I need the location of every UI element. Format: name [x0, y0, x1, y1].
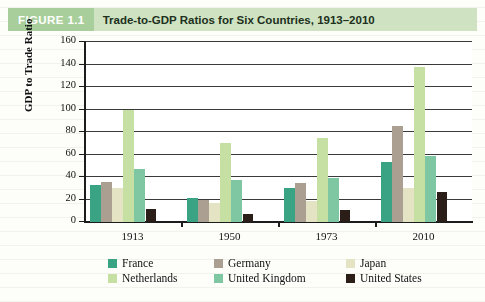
legend-item: Germany — [214, 258, 346, 270]
chart-legend: FranceGermanyJapanNetherlandsUnited King… — [108, 258, 438, 284]
legend-label: United Kingdom — [228, 273, 306, 285]
bar — [90, 185, 101, 222]
y-tick-label: 40 — [36, 170, 76, 181]
x-tick-label: 1973 — [297, 230, 357, 242]
y-axis-label: GDP to Trade Ratio — [22, 19, 34, 112]
bar — [134, 169, 145, 222]
bars-container — [84, 41, 472, 222]
bar — [101, 182, 112, 223]
bar — [198, 200, 209, 223]
y-tick-label: 100 — [36, 103, 76, 114]
legend-swatch — [346, 259, 355, 268]
figure-header: FIGURE 1.1 Trade-to-GDP Ratios for Six C… — [8, 8, 477, 31]
chart-area: GDP to Trade Ratio 020406080100120140160… — [0, 34, 485, 259]
x-tick-label: 1913 — [103, 230, 163, 242]
bar — [414, 67, 425, 222]
bar — [112, 188, 123, 222]
legend-item: Japan — [346, 258, 438, 270]
bar — [392, 126, 403, 222]
y-tick-label: 160 — [36, 35, 76, 46]
legend-item: United States — [346, 273, 438, 285]
legend-swatch — [346, 274, 355, 283]
bar — [381, 162, 392, 222]
y-tick-label: 80 — [36, 125, 76, 136]
bar — [284, 188, 295, 222]
bar — [328, 178, 339, 222]
bar — [403, 188, 414, 222]
bar — [220, 143, 231, 222]
x-tick-label: 1950 — [200, 230, 260, 242]
legend-swatch — [108, 274, 117, 283]
bar — [295, 183, 306, 222]
legend-swatch — [214, 259, 223, 268]
bar — [317, 138, 328, 222]
bar — [437, 192, 448, 222]
bar — [306, 201, 317, 222]
figure-title: Trade-to-GDP Ratios for Six Countries, 1… — [103, 14, 375, 26]
x-tick-mark — [375, 222, 377, 227]
legend-item: Netherlands — [108, 273, 214, 285]
legend-label: Germany — [228, 258, 271, 270]
x-tick-mark — [278, 222, 280, 227]
legend-item: France — [108, 258, 214, 270]
y-tick-label: 0 — [36, 215, 76, 226]
x-tick-label: 2010 — [394, 230, 454, 242]
bar — [123, 110, 134, 223]
bar — [187, 198, 198, 222]
legend-label: Netherlands — [122, 273, 178, 285]
bar — [340, 210, 351, 222]
y-tick-label: 60 — [36, 148, 76, 159]
legend-label: France — [122, 258, 153, 270]
y-tick-label: 120 — [36, 80, 76, 91]
bar — [209, 203, 220, 222]
legend-item: United Kingdom — [214, 273, 346, 285]
y-tick-label: 140 — [36, 58, 76, 69]
bar — [425, 156, 436, 222]
legend-label: Japan — [360, 258, 386, 270]
legend-label: United States — [360, 273, 422, 285]
figure-number: FIGURE 1.1 — [8, 8, 94, 31]
legend-swatch — [108, 259, 117, 268]
bar — [243, 214, 254, 222]
bar — [231, 180, 242, 222]
legend-swatch — [214, 274, 223, 283]
bar — [146, 209, 157, 223]
x-tick-mark — [181, 222, 183, 227]
y-tick-label: 20 — [36, 193, 76, 204]
